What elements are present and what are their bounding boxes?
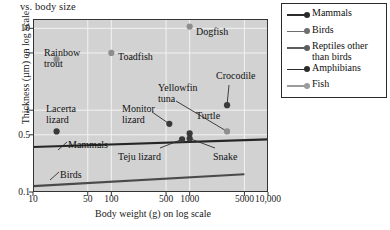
point-label-toadfish: Toadfish [118, 52, 153, 63]
point-label-snake: Snake [213, 152, 237, 163]
x-tick-label: 1000 [180, 194, 199, 204]
y-tick-label: 5 [25, 48, 30, 58]
legend-item-mammals[interactable]: Mammals [286, 8, 386, 20]
x-tick-label: 10 [28, 194, 38, 204]
legend-marker-icon [286, 26, 312, 37]
legend-item-birds[interactable]: Birds [286, 25, 386, 37]
point-label-turtle: Turtle [196, 111, 220, 122]
x-tick-label: 5000 [235, 194, 254, 204]
legend-marker-icon [286, 9, 312, 20]
data-point-monitor-lizard [166, 121, 172, 127]
legend-item-fish[interactable]: Fish [286, 79, 386, 91]
x-axis-ticks: 10501005001000500010,000 [33, 194, 268, 208]
legend-label: Reptiles other than birds [312, 41, 368, 62]
data-point-dogfish [187, 23, 193, 29]
y-tick-label: 0.5 [18, 130, 30, 140]
legend-item-reptiles other[interactable]: Reptiles other than birds [286, 41, 386, 62]
legend-label: Amphibians [312, 63, 361, 74]
figure-scatter-plot: vs. body size Thickness (µm) on log scal… [0, 0, 390, 230]
leader-line [190, 139, 215, 148]
y-tick-label: 10 [21, 23, 31, 33]
data-point-snake [187, 135, 193, 141]
legend-marker-icon [286, 42, 312, 53]
point-label-yellowfin-tuna: Yellowfin tuna [158, 83, 198, 104]
legend-marker-icon [286, 64, 312, 75]
y-axis-ticks: 0.10.51510 [0, 19, 30, 192]
legend: MammalsBirdsReptiles other than birdsAmp… [281, 3, 387, 98]
point-label-crocodile: Crocodile [216, 71, 255, 82]
trend-label-mammals: Mammals [68, 139, 108, 150]
x-tick-label: 100 [104, 194, 118, 204]
point-label-monitor-lizard: Monitor lizard [122, 104, 155, 125]
legend-label: Mammals [312, 8, 352, 19]
x-tick-label: 50 [83, 194, 93, 204]
trend-label-birds: Birds [60, 169, 82, 180]
point-label-rainbow-trout: Rainbow trout [44, 48, 80, 69]
legend-item-amphibians[interactable]: Amphibians [286, 63, 386, 75]
x-tick-label: 10,000 [255, 194, 281, 204]
legend-marker-icon [286, 80, 312, 91]
x-axis-label: Body weight (g) on log scale [33, 208, 273, 219]
data-point-lacerta-lizard [53, 128, 59, 134]
legend-label: Fish [312, 79, 329, 90]
point-label-dogfish: Dogfish [196, 27, 228, 38]
point-label-teju-lizard: Teju lizard [118, 152, 161, 163]
data-point-yellowfin-tuna [224, 128, 230, 134]
legend-label: Birds [312, 25, 334, 36]
data-point-toadfish [108, 50, 114, 56]
data-point-crocodile [224, 102, 230, 108]
y-tick-label: 1 [25, 105, 30, 115]
point-label-lacerta-lizard: Lacerta lizard [46, 104, 76, 125]
x-tick-label: 500 [159, 194, 173, 204]
data-point-teju-lizard [179, 136, 185, 142]
